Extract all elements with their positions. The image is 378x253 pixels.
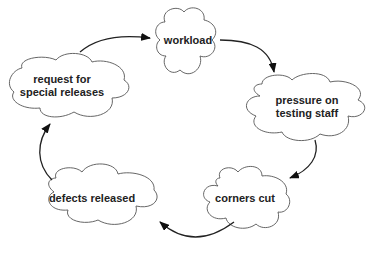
arrow-workload-to-pressure bbox=[220, 40, 274, 72]
workload-text: workload bbox=[164, 34, 212, 46]
arrow-corners-to-defects bbox=[160, 222, 234, 237]
arrow-defects-to-request bbox=[40, 124, 52, 180]
defects-text: defects released bbox=[49, 192, 135, 204]
pressure-text-line1: pressure on bbox=[276, 94, 339, 107]
request-text-line2: special releases bbox=[20, 86, 104, 99]
node-label-workload: workload bbox=[164, 34, 212, 47]
arrow-request-to-workload bbox=[80, 37, 150, 52]
arrow-pressure-to-corners bbox=[290, 140, 316, 178]
node-label-pressure: pressure on testing staff bbox=[276, 94, 339, 120]
node-label-request: request for special releases bbox=[20, 73, 104, 99]
node-label-defects: defects released bbox=[49, 192, 135, 205]
corners-text: corners cut bbox=[215, 192, 275, 204]
pressure-text-line2: testing staff bbox=[276, 107, 339, 120]
request-text-line1: request for bbox=[20, 73, 104, 86]
node-label-corners: corners cut bbox=[215, 192, 275, 205]
